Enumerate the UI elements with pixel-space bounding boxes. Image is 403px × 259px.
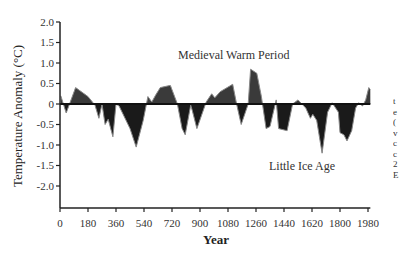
x-tick-label: 180 <box>80 217 97 229</box>
y-tick-label: -1.0 <box>37 139 55 151</box>
x-axis-title: Year <box>203 232 229 247</box>
x-tick-label: 1080 <box>217 217 240 229</box>
y-tick-label: -1.5 <box>37 159 55 171</box>
x-tick-label: 540 <box>136 217 153 229</box>
y-tick-label: 1.0 <box>40 57 54 69</box>
x-tick-label: 1440 <box>273 217 296 229</box>
x-tick-label: 0 <box>57 217 63 229</box>
x-tick-label: 360 <box>108 217 125 229</box>
plot-area <box>61 69 371 153</box>
y-axis-title: Temperature Anomaly (°C) <box>10 45 25 187</box>
x-tick-label: 900 <box>192 217 209 229</box>
x-tick-label: 1980 <box>357 217 380 229</box>
x-tick-label: 1800 <box>329 217 352 229</box>
annotation-little-ice-age: Little Ice Age <box>269 159 335 173</box>
y-tick-label: -0.5 <box>37 118 55 130</box>
y-tick-label: 0 <box>49 98 55 110</box>
x-tick-label: 1260 <box>245 217 268 229</box>
cropped-side-text: t e ( v c c 2 E <box>393 96 403 180</box>
annotation-medieval-warm-period: Medieval Warm Period <box>178 48 289 62</box>
y-tick-label: 2.0 <box>40 16 54 28</box>
y-tick-label: 1.5 <box>40 36 54 48</box>
y-tick-label: 0.5 <box>40 77 54 89</box>
y-tick-label: -2.0 <box>37 180 55 192</box>
x-tick-label: 1620 <box>301 217 324 229</box>
x-tick-label: 720 <box>164 217 181 229</box>
